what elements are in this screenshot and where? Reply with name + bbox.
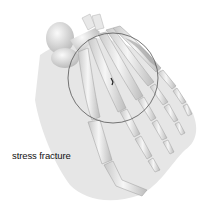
stress-fracture-label: stress fracture [12,150,71,161]
tarsal-top-2 [92,14,104,30]
foot-bones-drawing [0,0,211,206]
navicular-bone [51,48,79,68]
